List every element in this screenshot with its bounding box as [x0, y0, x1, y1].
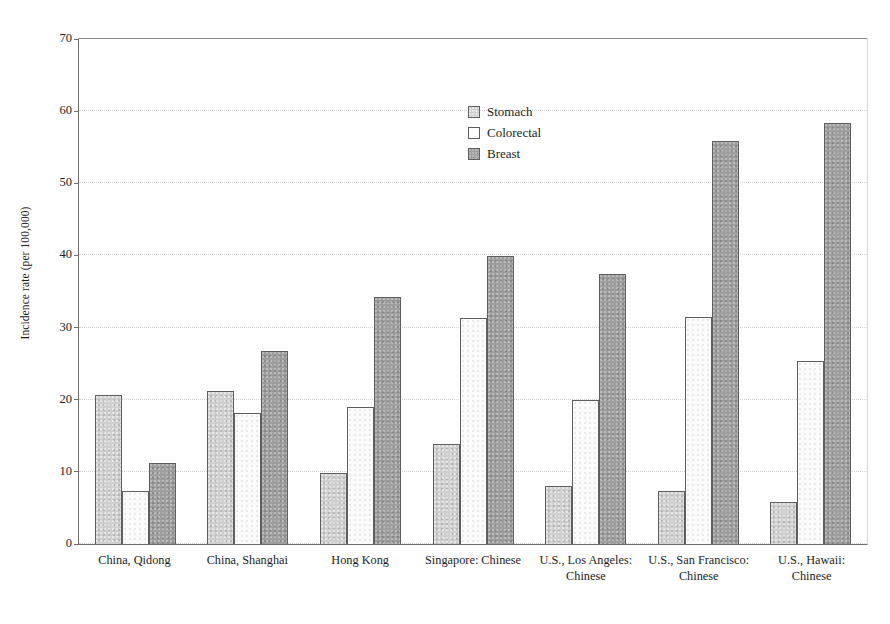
bar-colorectal[interactable]: [234, 413, 261, 544]
bar-stomach[interactable]: [770, 502, 797, 544]
bar-colorectal[interactable]: [572, 400, 599, 544]
legend-item-breast[interactable]: Breast: [468, 146, 541, 162]
x-axis-label: U.S., Hawaii: Chinese: [755, 552, 868, 584]
bar-chart-figure: Incidence rate (per 100,000) 01020304050…: [0, 0, 890, 624]
bar-breast[interactable]: [599, 274, 626, 544]
bar-group: [192, 39, 305, 544]
bar-breast[interactable]: [712, 141, 739, 544]
y-tick-label-0: 0: [66, 536, 72, 551]
y-axis-title: Incidence rate (per 100,000): [14, 0, 36, 545]
bar-stomach[interactable]: [433, 444, 460, 544]
bar-stomach[interactable]: [207, 391, 234, 544]
y-axis-title-text: Incidence rate (per 100,000): [19, 206, 31, 339]
legend-label: Colorectal: [487, 125, 541, 141]
legend-swatch-icon-breast: [468, 148, 480, 160]
bar-colorectal[interactable]: [460, 318, 487, 544]
y-tick-label-70: 70: [60, 31, 73, 46]
bar-breast[interactable]: [261, 351, 288, 544]
x-axis-label: Hong Kong: [304, 552, 417, 584]
legend-label: Breast: [487, 146, 520, 162]
bar-group: [79, 39, 192, 544]
x-axis-label: China, Shanghai: [191, 552, 304, 584]
y-tick-label-10: 10: [60, 464, 73, 479]
y-tick-label-30: 30: [60, 320, 73, 335]
legend-swatch-icon-colorectal: [468, 127, 480, 139]
legend-swatch-icon-stomach: [468, 106, 480, 118]
bar-breast[interactable]: [824, 123, 851, 544]
x-axis-label: China, Qidong: [78, 552, 191, 584]
bar-stomach[interactable]: [545, 486, 572, 544]
bar-breast[interactable]: [487, 256, 514, 544]
y-tick-label-50: 50: [60, 175, 73, 190]
bar-stomach[interactable]: [658, 491, 685, 544]
legend-item-stomach[interactable]: Stomach: [468, 104, 541, 120]
bar-breast[interactable]: [149, 463, 176, 544]
y-tick-label-20: 20: [60, 392, 73, 407]
y-tick-label-60: 60: [60, 103, 73, 118]
bar-colorectal[interactable]: [797, 361, 824, 544]
x-axis-labels: China, QidongChina, ShanghaiHong KongSin…: [78, 552, 868, 584]
legend-label: Stomach: [487, 104, 533, 120]
chart-legend: StomachColorectalBreast: [468, 104, 541, 162]
bar-colorectal[interactable]: [685, 317, 712, 544]
x-axis-label: U.S., Los Angeles: Chinese: [529, 552, 642, 584]
bar-breast[interactable]: [374, 297, 401, 544]
bar-group: [642, 39, 755, 544]
bar-group: [304, 39, 417, 544]
bar-stomach[interactable]: [95, 395, 122, 544]
bar-stomach[interactable]: [320, 473, 347, 544]
bar-colorectal[interactable]: [122, 491, 149, 544]
bar-group: [754, 39, 867, 544]
bar-colorectal[interactable]: [347, 407, 374, 544]
y-tick-label-40: 40: [60, 247, 73, 262]
x-axis-label: Singapore: Chinese: [417, 552, 530, 584]
bar-group: [529, 39, 642, 544]
x-axis-label: U.S., San Francisco: Chinese: [642, 552, 755, 584]
legend-item-colorectal[interactable]: Colorectal: [468, 125, 541, 141]
